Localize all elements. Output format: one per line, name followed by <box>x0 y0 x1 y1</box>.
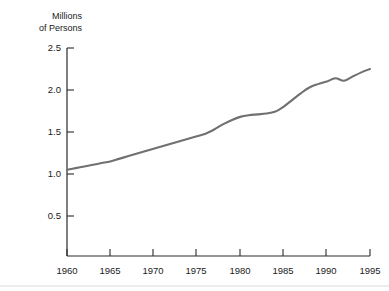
y-tick-label-2: 1.5 <box>48 126 61 137</box>
x-tick-label-4: 1980 <box>229 265 250 276</box>
data-line-series-0 <box>67 69 370 170</box>
y-axis-title-line2: of Persons <box>39 23 83 33</box>
y-tick-label-0: 0.5 <box>48 210 61 221</box>
x-tick-label-5: 1985 <box>272 265 293 276</box>
x-tick-label-7: 1995 <box>359 265 380 276</box>
y-tick-label-3: 2.0 <box>48 84 61 95</box>
x-tick-label-2: 1970 <box>142 265 163 276</box>
y-tick-label-4: 2.5 <box>48 42 61 53</box>
x-tick-label-1: 1965 <box>99 265 120 276</box>
x-tick-label-0: 1960 <box>56 265 77 276</box>
y-axis-ticks <box>67 48 74 216</box>
y-axis-title-line1: Millions <box>52 11 83 21</box>
x-axis-tick-labels: 1960 1965 1970 1975 1980 1985 1990 1995 <box>56 265 380 276</box>
y-axis-tick-labels: 2.5 2.0 1.5 1.0 0.5 <box>48 42 61 221</box>
x-tick-label-3: 1975 <box>185 265 206 276</box>
x-axis-ticks <box>67 249 370 256</box>
chart-figure: Millions of Persons 2.5 2.0 1.5 1.0 0.5 <box>0 0 389 291</box>
line-chart: Millions of Persons 2.5 2.0 1.5 1.0 0.5 <box>0 0 389 291</box>
x-tick-label-6: 1990 <box>315 265 336 276</box>
y-tick-label-1: 1.0 <box>48 168 61 179</box>
